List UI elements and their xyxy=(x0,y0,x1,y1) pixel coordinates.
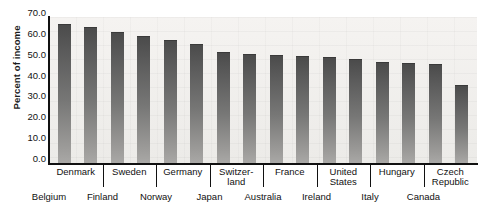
bar xyxy=(84,27,97,163)
x-axis-labels-upper-row: DenmarkSwedenGermanySwitzer-landFranceUn… xyxy=(49,166,477,192)
x-axis-label-line: Belgium xyxy=(22,192,76,203)
bar-slot xyxy=(449,17,476,163)
bar xyxy=(164,40,177,163)
y-axis-line xyxy=(48,16,50,164)
bar-slot xyxy=(369,17,396,163)
x-axis-label: Belgium xyxy=(22,192,76,203)
x-axis-label: France xyxy=(263,167,317,178)
plot-area xyxy=(49,17,477,163)
x-axis-label-line: Republic xyxy=(424,177,478,187)
bar-slot xyxy=(131,17,158,163)
x-axis-label-line: Australia xyxy=(236,192,290,203)
bar xyxy=(217,52,230,163)
bar-slot xyxy=(290,17,317,163)
x-axis-label: Norway xyxy=(129,192,183,203)
x-axis-label: UnitedStates xyxy=(317,167,371,187)
y-axis-tick-labels: 70.060.050.040.030.020.010.00.0 xyxy=(16,12,46,168)
bar-series xyxy=(49,17,477,163)
x-axis-labels-lower-row: BelgiumFinlandNorwayJapanAustraliaIrelan… xyxy=(12,192,478,212)
x-axis-label-line: Germany xyxy=(156,167,210,178)
y-axis-tick-label: 0.0 xyxy=(16,154,46,164)
x-axis-label-line: Japan xyxy=(183,192,237,203)
bar xyxy=(429,64,442,163)
bar-slot xyxy=(210,17,237,163)
bar-slot xyxy=(157,17,184,163)
bar xyxy=(455,85,468,163)
y-axis-tick-label: 70.0 xyxy=(16,8,46,18)
x-axis-label-line: Ireland xyxy=(290,192,344,203)
bar xyxy=(296,56,309,163)
bar-slot xyxy=(51,17,78,163)
bar xyxy=(137,36,150,163)
x-axis-label-line: States xyxy=(317,177,371,187)
x-axis-label-line: Sweden xyxy=(103,167,157,178)
x-axis-label-line: Finland xyxy=(76,192,130,203)
x-axis-label-line: land xyxy=(210,177,264,187)
x-axis-label: Finland xyxy=(76,192,130,203)
bar xyxy=(349,59,362,163)
y-axis-tick-label: 20.0 xyxy=(16,112,46,122)
x-axis-label: Hungary xyxy=(370,167,424,178)
y-axis-tick-label: 30.0 xyxy=(16,91,46,101)
bar-slot xyxy=(78,17,105,163)
y-axis-tick-label: 40.0 xyxy=(16,71,46,81)
bar xyxy=(376,62,389,163)
bar xyxy=(402,63,415,163)
bar-slot xyxy=(343,17,370,163)
bar xyxy=(243,54,256,164)
bar-slot xyxy=(237,17,264,163)
x-axis-label: Australia xyxy=(236,192,290,203)
x-axis-label-line: Denmark xyxy=(49,167,103,178)
x-axis-label-line: France xyxy=(263,167,317,178)
x-axis-label: Japan xyxy=(183,192,237,203)
x-axis-label: Italy xyxy=(343,192,397,203)
x-axis-label: Switzer-land xyxy=(210,167,264,187)
x-axis-label: Ireland xyxy=(290,192,344,203)
x-axis-label: CzechRepublic xyxy=(424,167,478,187)
bar xyxy=(270,55,283,163)
bar-slot xyxy=(316,17,343,163)
x-axis-label: Sweden xyxy=(103,167,157,178)
x-axis-label-line: Italy xyxy=(343,192,397,203)
bar-chart: Percent of income 70.060.050.040.030.020… xyxy=(0,0,484,217)
bar-slot xyxy=(263,17,290,163)
x-axis-label: Canada xyxy=(397,192,451,203)
x-axis-label: Denmark xyxy=(49,167,103,178)
bar xyxy=(190,44,203,163)
bar-slot xyxy=(422,17,449,163)
y-axis-tick-label: 60.0 xyxy=(16,29,46,39)
bar xyxy=(58,24,71,163)
x-axis-label-line: Norway xyxy=(129,192,183,203)
bar-slot xyxy=(396,17,423,163)
x-axis-label-line: Hungary xyxy=(370,167,424,178)
x-axis-label: Germany xyxy=(156,167,210,178)
y-axis-tick-label: 50.0 xyxy=(16,50,46,60)
bar-slot xyxy=(184,17,211,163)
bar xyxy=(111,32,124,163)
y-axis-tick-label: 10.0 xyxy=(16,133,46,143)
bar xyxy=(323,57,336,163)
x-axis-label-line: Canada xyxy=(397,192,451,203)
bar-slot xyxy=(104,17,131,163)
